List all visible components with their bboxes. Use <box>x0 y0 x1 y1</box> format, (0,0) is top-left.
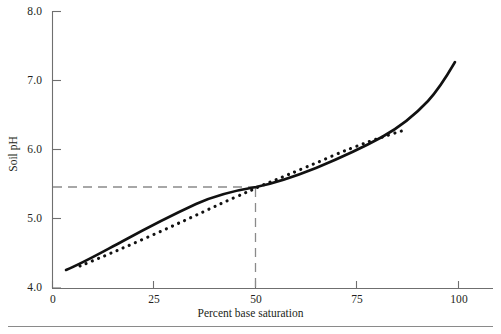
y-tick-label-4: 4.0 <box>4 281 42 293</box>
x-tick-label-25: 25 <box>134 293 174 305</box>
reference-guides <box>53 187 256 288</box>
y-axis-label: Soil pH <box>7 119 19 189</box>
chart-plot-area <box>0 0 501 334</box>
soil-ph-curve <box>66 62 455 270</box>
figure-container: 8.0 7.0 6.0 5.0 4.0 0 25 50 75 100 Soil … <box>0 0 501 334</box>
x-tick-label-75: 75 <box>337 293 377 305</box>
x-axis-label: Percent base saturation <box>0 307 501 319</box>
x-tick-label-100: 100 <box>439 293 479 305</box>
y-tick-label-7: 7.0 <box>4 74 42 86</box>
y-tick-label-5: 5.0 <box>4 212 42 224</box>
figure-bottom-rule <box>8 326 493 327</box>
x-tick-label-0: 0 <box>33 293 73 305</box>
y-axis-ticks <box>53 12 62 289</box>
x-tick-label-50: 50 <box>236 293 276 305</box>
axis-lines <box>52 11 493 289</box>
y-tick-label-8: 8.0 <box>4 5 42 17</box>
